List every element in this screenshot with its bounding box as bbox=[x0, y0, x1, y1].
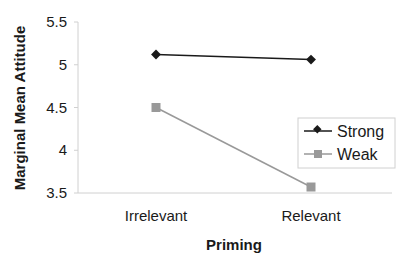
legend: Strong Weak bbox=[298, 118, 395, 168]
legend-weak-square-icon bbox=[314, 150, 322, 158]
x-axis-title: Priming bbox=[206, 236, 262, 253]
series-line-weak bbox=[156, 108, 311, 188]
data-point-weak-square-icon bbox=[152, 103, 161, 112]
y-tick-label: 4 bbox=[59, 141, 67, 158]
legend-label-weak: Weak bbox=[337, 146, 379, 163]
data-point-strong-diamond-icon bbox=[306, 55, 316, 65]
y-tick-label: 3.5 bbox=[46, 184, 67, 201]
y-axis-title: Marginal Mean Attitude bbox=[11, 26, 28, 190]
data-point-weak-square-icon bbox=[307, 183, 316, 192]
y-tick-label: 5.5 bbox=[46, 13, 67, 30]
series-line-strong bbox=[156, 54, 311, 59]
x-category-label-irrelevant: Irrelevant bbox=[125, 207, 188, 224]
data-point-strong-diamond-icon bbox=[151, 50, 161, 60]
x-category-label-relevant: Relevant bbox=[281, 207, 341, 224]
y-tick-label: 4.5 bbox=[46, 99, 67, 116]
y-axis-ticks: 3.544.555.5 bbox=[46, 13, 78, 201]
series-layer bbox=[151, 50, 316, 192]
legend-label-strong: Strong bbox=[337, 123, 384, 140]
line-chart: 3.544.555.5 Irrelevant Relevant Priming … bbox=[0, 0, 409, 269]
y-tick-label: 5 bbox=[59, 56, 67, 73]
